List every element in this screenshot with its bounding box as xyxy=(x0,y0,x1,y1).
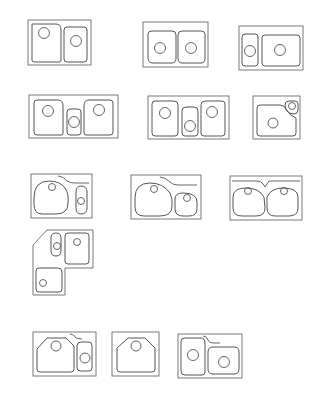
drain-icon xyxy=(155,43,166,54)
bowl xyxy=(65,233,89,264)
bowl xyxy=(37,338,74,372)
faucet-ledge xyxy=(160,177,197,185)
sink-8 xyxy=(131,175,201,219)
drain-icon xyxy=(275,45,286,56)
drain-icon xyxy=(69,117,80,128)
bowl xyxy=(233,188,265,216)
bowl xyxy=(84,100,113,135)
sink-6 xyxy=(253,96,300,139)
bowl xyxy=(175,193,197,216)
faucet-ledge xyxy=(70,334,82,339)
drain-icon xyxy=(131,341,141,351)
drain-icon xyxy=(289,103,296,110)
drain-icon xyxy=(160,108,171,119)
bowl xyxy=(148,31,176,63)
sink-2 xyxy=(143,22,208,67)
drain-icon xyxy=(51,341,61,351)
sink-3 xyxy=(239,26,303,70)
sink-outline xyxy=(148,96,229,139)
faucet-ledge xyxy=(58,176,89,183)
bowl xyxy=(257,105,296,136)
sink-13 xyxy=(178,334,242,378)
drain-icon xyxy=(71,36,82,47)
bowl xyxy=(67,109,81,135)
drain-icon xyxy=(94,105,105,116)
bowl xyxy=(262,35,300,66)
drain-icon xyxy=(54,243,61,250)
sink-outline xyxy=(33,230,93,295)
sink-9 xyxy=(230,176,302,220)
drain-icon xyxy=(80,353,90,363)
drain-icon xyxy=(188,350,199,361)
sink-outline xyxy=(230,176,302,220)
drain-icon xyxy=(151,186,158,193)
bowl xyxy=(181,338,205,375)
sink-10 xyxy=(33,230,93,295)
drain-icon xyxy=(39,28,50,39)
sink-outline xyxy=(31,174,92,218)
sink-outline xyxy=(33,332,96,376)
bowl xyxy=(267,188,298,216)
bowl xyxy=(178,31,205,63)
sink-configuration-diagram xyxy=(0,0,317,393)
faucet-ledge xyxy=(232,181,300,187)
sink-7 xyxy=(31,174,92,218)
drain-icon xyxy=(40,280,47,287)
sink-12 xyxy=(112,332,159,376)
drain-icon xyxy=(184,195,191,202)
drain-icon xyxy=(207,107,218,118)
faucet-ledge xyxy=(203,336,220,343)
bowl xyxy=(51,233,61,256)
diagram-canvas xyxy=(0,0,317,393)
drain-icon xyxy=(74,239,81,246)
sink-4 xyxy=(29,95,118,138)
drain-icon xyxy=(186,43,197,54)
drain-icon xyxy=(268,118,278,128)
sink-1 xyxy=(28,20,91,65)
sink-outline xyxy=(112,332,159,376)
bowl xyxy=(32,24,61,62)
bowl xyxy=(208,347,239,374)
drain-icon xyxy=(49,184,56,191)
bowl xyxy=(117,338,155,372)
bowl xyxy=(36,268,62,292)
bowl xyxy=(135,183,172,216)
drain-icon xyxy=(219,357,230,368)
bowl xyxy=(34,181,68,214)
drain-icon xyxy=(281,188,288,195)
drain-icon xyxy=(185,121,196,132)
sink-11 xyxy=(33,332,96,376)
drain-icon xyxy=(78,198,85,205)
drain-icon xyxy=(245,46,256,57)
bowl xyxy=(64,27,87,62)
sink-5 xyxy=(148,96,229,139)
drain-icon xyxy=(43,106,54,117)
sink-outline xyxy=(239,26,303,70)
